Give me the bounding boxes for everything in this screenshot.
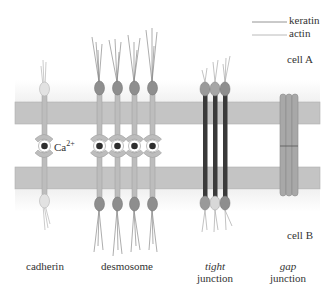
calcium-charge: 2+ <box>66 139 75 148</box>
calcium-symbol: Ca <box>54 141 66 153</box>
desmosome-plaque-bottom <box>148 197 158 211</box>
claudin-strand <box>203 94 208 198</box>
desmosome-label: desmosome <box>97 260 157 272</box>
gap-junction-label-line1: gap <box>268 260 308 272</box>
tight-junction-label-line1: tight <box>195 260 235 272</box>
connexon-channel <box>286 94 292 196</box>
tight-junction-complex <box>200 56 232 232</box>
cell-a-cytoplasm <box>15 80 320 102</box>
cell-b-cytoplasm <box>15 190 320 212</box>
desmosome-complex <box>91 28 162 256</box>
desmosome-plaque-top <box>130 81 140 95</box>
gap-junction-complex <box>280 94 298 196</box>
connexon-channel <box>292 94 298 196</box>
calcium-ion <box>131 143 138 150</box>
desmosome-plaque-bottom <box>130 197 140 211</box>
calcium-ion <box>114 143 121 150</box>
claudin-strand <box>223 94 228 198</box>
cell-b-label: cell B <box>287 229 313 241</box>
desmosome-plaque-bottom <box>113 197 123 211</box>
calcium-ion <box>41 143 48 150</box>
cell-a-membrane <box>15 102 320 124</box>
connexon-channel <box>280 94 286 196</box>
cell-junction-diagram <box>0 0 336 293</box>
gap-junction-label-line2: junction <box>264 272 312 284</box>
desmosome-plaque-top <box>113 81 123 95</box>
calcium-ion <box>96 143 103 150</box>
legend-keratin-label: keratin <box>289 14 320 26</box>
cadherin-plaque-top <box>40 82 50 96</box>
cell-a-label: cell A <box>287 53 313 65</box>
desmosome-plaque-top <box>95 81 105 95</box>
legend-actin-label: actin <box>289 27 310 39</box>
calcium-label: Ca2+ <box>54 139 75 153</box>
cell-b-membrane <box>15 167 320 189</box>
calcium-ion <box>149 143 156 150</box>
cadherin-label: cadherin <box>22 260 68 272</box>
desmosome-plaque-bottom <box>95 197 105 211</box>
tight-junction-label-line2: junction <box>191 272 239 284</box>
desmosome-plaque-top <box>148 81 158 95</box>
cadherin-plaque-bottom <box>40 194 50 208</box>
claudin-strand <box>213 94 218 198</box>
